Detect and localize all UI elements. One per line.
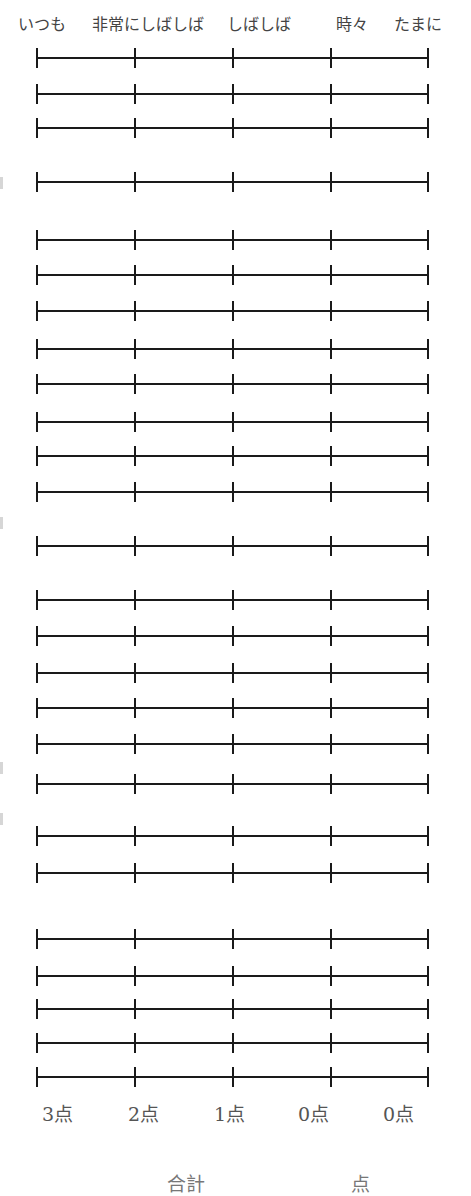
scale-tick-3[interactable] — [330, 929, 332, 949]
scale-tick-1[interactable] — [134, 826, 136, 846]
scale-tick-0[interactable] — [36, 301, 38, 321]
rating-scale-row[interactable] — [0, 589, 471, 611]
scale-tick-0[interactable] — [36, 265, 38, 285]
scale-tick-0[interactable] — [36, 999, 38, 1019]
scale-tick-1[interactable] — [134, 929, 136, 949]
rating-scale-row[interactable] — [0, 928, 471, 950]
scale-tick-3[interactable] — [330, 999, 332, 1019]
scale-tick-4[interactable] — [427, 412, 429, 432]
scale-tick-2[interactable] — [232, 626, 234, 646]
scale-tick-1[interactable] — [134, 446, 136, 466]
scale-tick-4[interactable] — [427, 265, 429, 285]
scale-tick-4[interactable] — [427, 698, 429, 718]
scale-tick-3[interactable] — [330, 118, 332, 138]
scale-tick-1[interactable] — [134, 48, 136, 68]
scale-tick-3[interactable] — [330, 301, 332, 321]
scale-tick-4[interactable] — [427, 172, 429, 192]
scale-tick-2[interactable] — [232, 590, 234, 610]
scale-tick-0[interactable] — [36, 663, 38, 683]
scale-tick-1[interactable] — [134, 626, 136, 646]
scale-tick-4[interactable] — [427, 482, 429, 502]
scale-tick-4[interactable] — [427, 929, 429, 949]
scale-tick-1[interactable] — [134, 1067, 136, 1087]
scale-tick-2[interactable] — [232, 301, 234, 321]
scale-tick-4[interactable] — [427, 590, 429, 610]
scale-tick-0[interactable] — [36, 482, 38, 502]
scale-tick-4[interactable] — [427, 734, 429, 754]
scale-tick-1[interactable] — [134, 339, 136, 359]
scale-tick-3[interactable] — [330, 374, 332, 394]
scale-tick-1[interactable] — [134, 118, 136, 138]
scale-tick-1[interactable] — [134, 663, 136, 683]
rating-scale-row[interactable] — [0, 300, 471, 322]
scale-tick-1[interactable] — [134, 172, 136, 192]
scale-tick-4[interactable] — [427, 1067, 429, 1087]
rating-scale-row[interactable] — [0, 481, 471, 503]
rating-scale-row[interactable] — [0, 229, 471, 251]
scale-tick-1[interactable] — [134, 999, 136, 1019]
scale-tick-2[interactable] — [232, 536, 234, 556]
scale-tick-0[interactable] — [36, 826, 38, 846]
scale-tick-1[interactable] — [134, 536, 136, 556]
scale-tick-2[interactable] — [232, 118, 234, 138]
scale-tick-3[interactable] — [330, 774, 332, 794]
scale-tick-1[interactable] — [134, 482, 136, 502]
scale-tick-4[interactable] — [427, 863, 429, 883]
scale-tick-2[interactable] — [232, 698, 234, 718]
scale-tick-2[interactable] — [232, 1033, 234, 1053]
scale-tick-1[interactable] — [134, 265, 136, 285]
scale-tick-3[interactable] — [330, 966, 332, 986]
scale-tick-3[interactable] — [330, 172, 332, 192]
scale-tick-0[interactable] — [36, 1067, 38, 1087]
scale-tick-4[interactable] — [427, 374, 429, 394]
scale-tick-1[interactable] — [134, 863, 136, 883]
scale-tick-0[interactable] — [36, 374, 38, 394]
scale-tick-1[interactable] — [134, 374, 136, 394]
scale-tick-1[interactable] — [134, 734, 136, 754]
scale-tick-2[interactable] — [232, 663, 234, 683]
scale-tick-2[interactable] — [232, 863, 234, 883]
scale-tick-1[interactable] — [134, 230, 136, 250]
scale-tick-3[interactable] — [330, 339, 332, 359]
scale-tick-2[interactable] — [232, 412, 234, 432]
rating-scale-row[interactable] — [0, 338, 471, 360]
scale-tick-2[interactable] — [232, 774, 234, 794]
scale-tick-3[interactable] — [330, 412, 332, 432]
scale-tick-3[interactable] — [330, 482, 332, 502]
scale-tick-3[interactable] — [330, 698, 332, 718]
rating-scale-row[interactable] — [0, 117, 471, 139]
rating-scale-row[interactable] — [0, 773, 471, 795]
rating-scale-row[interactable] — [0, 825, 471, 847]
scale-tick-4[interactable] — [427, 826, 429, 846]
scale-tick-2[interactable] — [232, 999, 234, 1019]
scale-tick-2[interactable] — [232, 265, 234, 285]
scale-tick-3[interactable] — [330, 590, 332, 610]
scale-tick-2[interactable] — [232, 84, 234, 104]
scale-tick-3[interactable] — [330, 826, 332, 846]
scale-tick-1[interactable] — [134, 590, 136, 610]
scale-tick-3[interactable] — [330, 265, 332, 285]
rating-scale-row[interactable] — [0, 862, 471, 884]
scale-tick-3[interactable] — [330, 48, 332, 68]
scale-tick-2[interactable] — [232, 734, 234, 754]
scale-tick-4[interactable] — [427, 966, 429, 986]
scale-tick-2[interactable] — [232, 482, 234, 502]
rating-scale-row[interactable] — [0, 83, 471, 105]
scale-tick-3[interactable] — [330, 863, 332, 883]
scale-tick-4[interactable] — [427, 999, 429, 1019]
scale-tick-0[interactable] — [36, 412, 38, 432]
rating-scale-row[interactable] — [0, 697, 471, 719]
scale-tick-0[interactable] — [36, 698, 38, 718]
scale-tick-2[interactable] — [232, 446, 234, 466]
scale-tick-1[interactable] — [134, 698, 136, 718]
scale-tick-1[interactable] — [134, 84, 136, 104]
scale-tick-3[interactable] — [330, 663, 332, 683]
scale-tick-1[interactable] — [134, 301, 136, 321]
scale-tick-2[interactable] — [232, 374, 234, 394]
scale-tick-0[interactable] — [36, 536, 38, 556]
scale-tick-0[interactable] — [36, 863, 38, 883]
scale-tick-2[interactable] — [232, 966, 234, 986]
scale-tick-4[interactable] — [427, 536, 429, 556]
scale-tick-0[interactable] — [36, 339, 38, 359]
rating-scale-row[interactable] — [0, 264, 471, 286]
